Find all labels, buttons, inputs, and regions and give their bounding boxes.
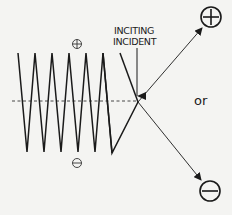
zigzag-oscillation [18,53,138,153]
final-descent [120,53,138,102]
inciting-label-line2: INCIDENT [113,36,156,47]
or-connector-label: or [194,93,207,108]
inciting-label-line1: INCITING [114,25,154,36]
positive-outcome-icon [201,7,221,27]
arrow-to-negative [138,102,201,180]
small-plus-icon [73,40,82,49]
final-ascent-from-valley [103,53,112,153]
small-minus-icon [73,159,82,168]
negative-outcome-icon [200,181,220,201]
last-peak-rise [112,53,120,153]
inciting-incident-diagram: INCITING INCIDENT or [0,0,232,215]
